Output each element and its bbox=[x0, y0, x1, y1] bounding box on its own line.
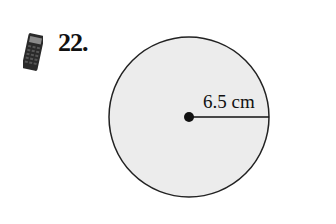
center-point bbox=[184, 112, 194, 122]
circle-figure: 6.5 cm bbox=[0, 0, 336, 224]
radius-label: 6.5 cm bbox=[203, 91, 255, 112]
